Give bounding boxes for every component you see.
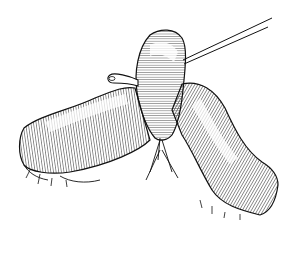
left-bowel-segment	[20, 87, 151, 187]
illustration-canvas	[0, 0, 294, 258]
central-bowel-loop	[136, 30, 185, 180]
intestine-illustration	[0, 0, 294, 258]
right-bowel-segment	[172, 83, 278, 220]
probe	[183, 18, 272, 64]
catheter-tip	[108, 74, 138, 86]
